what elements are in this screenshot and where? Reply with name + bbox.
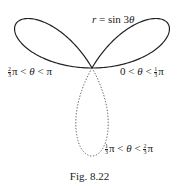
equation-sin: = sin 3 bbox=[96, 13, 129, 25]
rose-curve-plot bbox=[0, 0, 179, 186]
left-petal-range-label: 23π < θ < π bbox=[8, 65, 52, 78]
fraction-1-3: 13 bbox=[154, 67, 157, 78]
equation-theta: θ bbox=[129, 13, 134, 25]
figure-caption: Fig. 8.22 bbox=[0, 170, 179, 182]
bottom-petal-range-label: 13π < θ < 23π bbox=[105, 142, 153, 155]
bottom-petal-dotted bbox=[76, 68, 108, 156]
fraction-1-3: 13 bbox=[105, 144, 108, 155]
rose-curve-figure: r = sin 3θ 23π < θ < π 0 < θ < 13π 13π <… bbox=[0, 0, 179, 186]
right-petal-solid bbox=[92, 19, 169, 68]
right-petal-range-label: 0 < θ < 13π bbox=[120, 65, 164, 78]
left-petal-solid bbox=[15, 19, 92, 68]
fraction-2-3: 23 bbox=[8, 67, 11, 78]
equation-label: r = sin 3θ bbox=[92, 13, 134, 25]
fraction-2-3: 23 bbox=[143, 144, 146, 155]
